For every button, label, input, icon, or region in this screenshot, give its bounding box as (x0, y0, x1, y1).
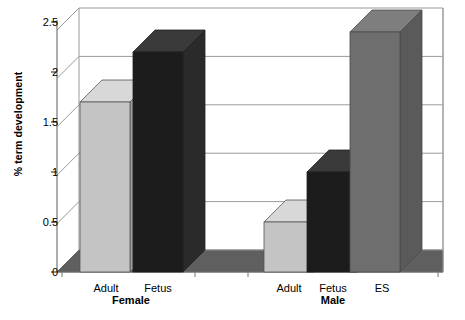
y-tick-label-1: 1 (24, 167, 58, 177)
y-tick-label-2: 2 (24, 67, 58, 77)
chart-canvas (0, 0, 465, 320)
bar-chart: % term development (0, 0, 465, 320)
y-tick-labels: 2.5 2 1.5 1 0.5 0 (0, 0, 58, 320)
y-tick-label-2.5: 2.5 (24, 17, 58, 27)
x-label-male-es: ES (352, 282, 412, 294)
bar-side-face (183, 30, 205, 272)
y-tick-label-0.5: 0.5 (24, 217, 58, 227)
bar-front-face (307, 172, 357, 272)
bar-female-fetus (133, 30, 205, 272)
bar-front-face (133, 52, 183, 272)
x-label-female-fetus: Fetus (128, 282, 188, 294)
bar-front-face (350, 32, 400, 272)
y-tick-label-0: 0 (24, 267, 58, 277)
bar-male-es (350, 10, 422, 272)
bar-front-face (80, 102, 130, 272)
bar-side-face (400, 10, 422, 272)
bar-front-face (264, 222, 314, 272)
x-group-label-male: Male (298, 294, 368, 306)
plot-left-wall (57, 8, 79, 272)
x-label-female-adult: Adult (76, 282, 136, 294)
x-group-label-female: Female (96, 294, 166, 306)
y-tick-label-1.5: 1.5 (24, 117, 58, 127)
